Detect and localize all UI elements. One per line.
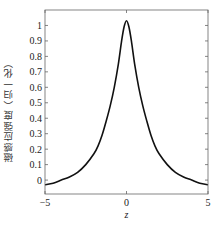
plot-frame bbox=[45, 10, 208, 194]
y-tick-label: 0.2 bbox=[30, 144, 43, 155]
y-axis-ticks: 00.10.20.30.40.50.60.70.80.91 bbox=[30, 20, 209, 186]
y-tick-label: 0.9 bbox=[30, 35, 43, 46]
curves bbox=[45, 21, 208, 185]
series-line bbox=[45, 21, 208, 185]
y-tick-label: 0.5 bbox=[30, 97, 43, 108]
x-axis-label: z bbox=[124, 209, 129, 220]
y-axis-label: 磁感应强度（归一化） bbox=[2, 40, 16, 180]
y-tick-label: 0.8 bbox=[30, 51, 43, 62]
y-tick-label: 0.6 bbox=[30, 82, 43, 93]
y-tick-label: 1 bbox=[37, 20, 42, 31]
y-tick-label: 0.7 bbox=[30, 66, 43, 77]
x-tick-label: 5 bbox=[206, 197, 211, 208]
chart: 00.10.20.30.40.50.60.70.80.91 −505 z bbox=[0, 0, 216, 227]
x-tick-label: 0 bbox=[124, 197, 129, 208]
y-tick-label: 0 bbox=[37, 175, 42, 186]
x-tick-label: −5 bbox=[40, 197, 51, 208]
y-tick-label: 0.4 bbox=[30, 113, 43, 124]
y-tick-label: 0.1 bbox=[30, 159, 43, 170]
y-tick-label: 0.3 bbox=[30, 128, 43, 139]
